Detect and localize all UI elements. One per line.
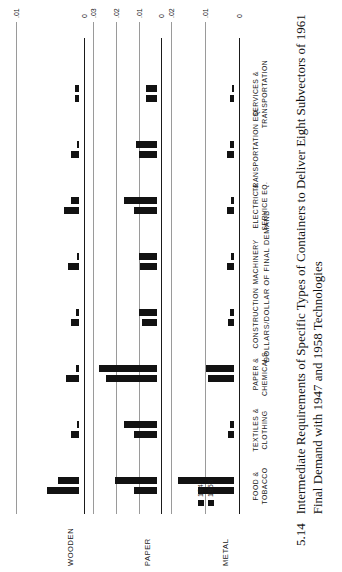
bar [139,310,157,317]
bar-group [16,290,79,346]
bar [227,152,234,159]
bar [75,86,79,93]
bar [228,432,234,439]
category-label: MACHINERY [252,239,261,284]
bar [134,488,157,495]
bar [68,264,80,271]
y-tick-label: .02 [112,8,119,18]
bar-group-container [16,66,79,514]
bar [146,86,157,93]
panel-title-paper: PAPER [143,538,152,566]
chart-panels: WOODEN0.01PAPER0.01.02.03METAL0.01.02 [16,22,248,514]
bar [66,376,80,383]
bar [71,432,80,439]
y-tick-label: 0 [235,14,242,18]
bar [136,142,156,149]
bar-group [16,122,79,178]
figure-caption-text: Intermediate Requirements of Specific Ty… [292,10,326,514]
bar-group [171,234,234,290]
bar [227,208,234,215]
bar [115,478,157,485]
bar [124,422,156,429]
bar [231,198,234,205]
bar [134,208,156,215]
bar [146,96,157,103]
bar-group-container [93,66,156,514]
legend-item-1958: 1958 [206,479,215,506]
y-tick-label: .01 [135,8,142,18]
bar [232,86,234,93]
bar [124,198,156,205]
bar [139,152,157,159]
bar [230,142,234,149]
y-tick-label: .02 [167,8,174,18]
bar [206,366,234,373]
y-tick-label: .03 [90,8,97,18]
bar-group [171,66,234,122]
bar-group [16,66,79,122]
bar [47,488,80,495]
axis-baseline [239,38,240,514]
bar-group [171,346,234,402]
panel-metal: METAL0.01.02 [171,22,234,514]
y-tick-label: 0 [81,14,88,18]
bar [71,198,80,205]
bar-group [16,178,79,234]
panel-title-wooden: WOODEN [66,528,75,566]
bar [134,432,156,439]
bar [75,96,80,103]
bar [99,366,157,373]
bar [71,152,80,159]
bar-group [93,290,156,346]
y-tick-label: .01 [201,8,208,18]
bar [58,478,80,485]
panel-paper: PAPER0.01.02.03 [93,22,156,514]
axis-title: DOLLARS/DOLLAR OF FINAL DEMAND [262,0,271,572]
bar [77,254,79,261]
bar [76,310,79,317]
bar-group [16,402,79,458]
bar [230,422,234,429]
figure-number: 5.14 [292,523,326,546]
category-label: CONSTRUCTION [252,288,261,349]
figure-page: WOODEN0.01PAPER0.01.02.03METAL0.01.02 19… [0,0,342,572]
bar-group [16,234,79,290]
plot-area: 0.01 [16,66,79,514]
bar-group [171,290,234,346]
bar-group [93,234,156,290]
legend-label-1947: 1947 [196,479,205,497]
legend-swatch-1947 [198,500,204,506]
bar [76,366,79,373]
bar [231,254,234,261]
figure-caption: 5.14 Intermediate Requirements of Specif… [292,10,326,546]
bar-group [93,402,156,458]
bar [227,264,234,271]
bar-group [93,346,156,402]
bar [139,254,157,261]
legend-item-1947: 1947 [196,479,205,506]
bar-group [16,458,79,514]
chart-legend: 1947 1958 [196,479,215,506]
bar [230,310,234,317]
bar [106,376,156,383]
axis-baseline [84,38,85,514]
bar [142,320,156,327]
bar [77,422,80,429]
bar [230,96,234,103]
bar [77,142,79,149]
bar [140,264,157,271]
bar-group [93,122,156,178]
bar-group [171,178,234,234]
bar [64,208,80,215]
panel-title-metal: METAL [221,539,230,566]
bar-group [93,178,156,234]
legend-label-1958: 1958 [206,479,215,497]
y-tick-label: 0 [158,14,165,18]
bar-group [171,402,234,458]
legend-swatch-1958 [208,500,214,506]
bar-group [93,66,156,122]
bar [228,320,234,327]
plot-area: 0.01.02.03 [93,66,156,514]
bar [208,376,234,383]
bar [71,320,79,327]
